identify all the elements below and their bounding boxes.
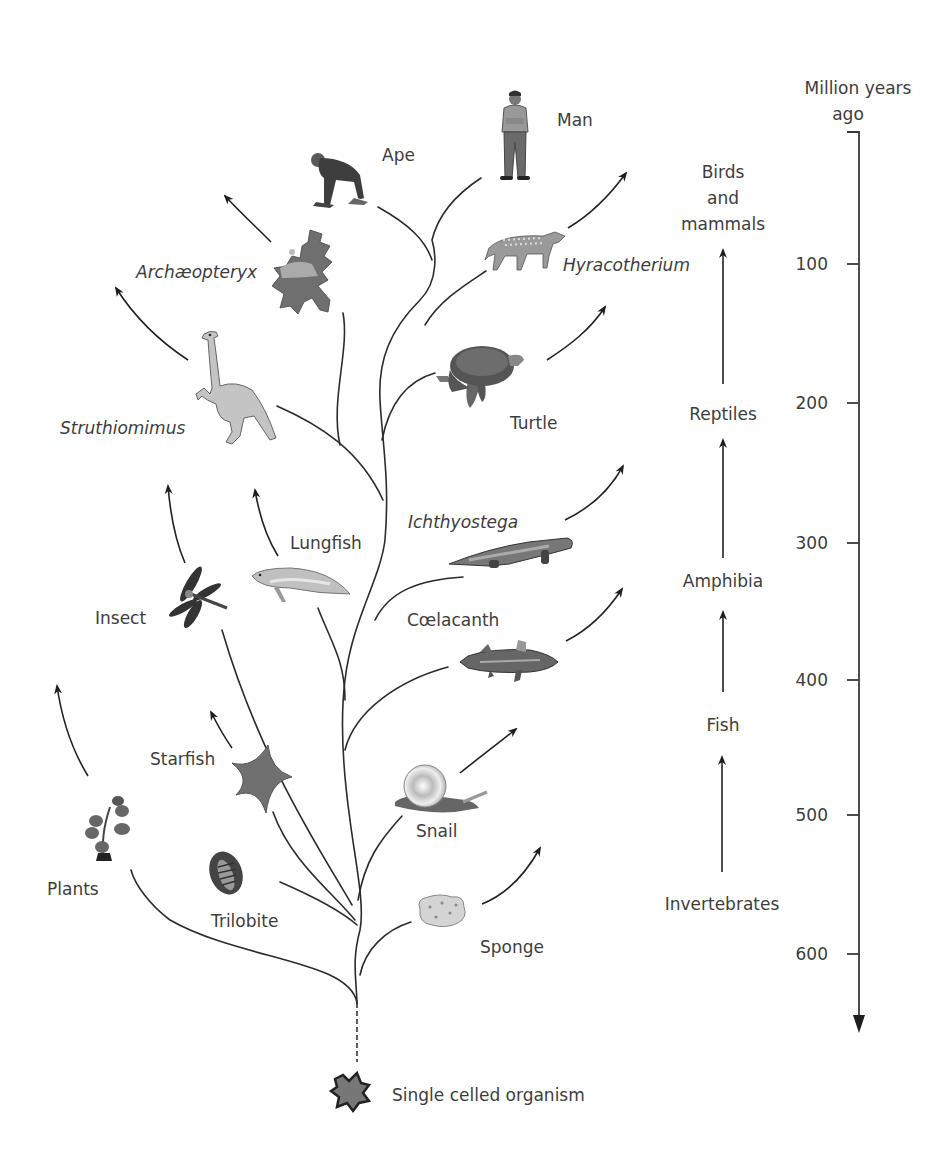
man-icon (500, 91, 530, 181)
label-ichthyostega: Ichthyostega (408, 512, 518, 532)
arrow-ichthyostega (565, 466, 623, 520)
tick-label-400: 400 (796, 670, 828, 690)
trilobite-icon (203, 847, 248, 899)
label-snail: Snail (416, 821, 457, 841)
organism-labels: Man Ape Archæopteryx Hyracotherium Strut… (47, 110, 690, 1105)
stage-reptiles: Reptiles (689, 404, 757, 424)
axis-line (847, 132, 859, 1020)
arrow-starfish (211, 712, 232, 748)
axis-title-line2: ago (832, 104, 864, 124)
arrow-hyracotherium (568, 173, 626, 228)
tick-label-200: 200 (796, 393, 828, 413)
label-turtle: Turtle (509, 413, 557, 433)
label-single-celled-organism: Single celled organism (392, 1085, 585, 1105)
sponge-icon (419, 895, 465, 927)
branch-trilobite (280, 882, 357, 925)
plant-icon (85, 796, 130, 861)
label-trilobite: Trilobite (210, 911, 278, 931)
stage-invertebrates: Invertebrates (665, 894, 780, 914)
ichthyostega-icon (449, 538, 572, 568)
archaeopteryx-icon (272, 230, 332, 314)
arrow-sponge (482, 848, 540, 904)
evolution-tree-diagram: Man Ape Archæopteryx Hyracotherium Strut… (0, 0, 943, 1171)
label-hyracotherium: Hyracotherium (563, 255, 690, 275)
arrow-turtle (547, 307, 605, 360)
branch-plants (131, 870, 357, 1003)
label-plants: Plants (47, 879, 99, 899)
label-insect: Insect (95, 608, 146, 628)
time-axis: Million years ago 100 200 300 400 500 60… (796, 78, 912, 1033)
branch-ape (378, 207, 432, 260)
arrow-archaeopteryx (225, 196, 271, 242)
label-ape: Ape (382, 145, 415, 165)
stage-fish: Fish (707, 715, 740, 735)
branch-archaeopteryx (337, 313, 344, 445)
stage-birds-line3: mammals (681, 214, 765, 234)
branch-struthiomimus (277, 406, 383, 500)
arrow-struthiomimus (116, 288, 188, 360)
branch-snail (358, 816, 402, 900)
axis-title-line1: Million years (805, 78, 912, 98)
lungfish-icon (252, 568, 350, 602)
tick-label-300: 300 (796, 533, 828, 553)
starfish-icon (232, 745, 292, 813)
branch-sponge (360, 922, 411, 975)
stage-birds-line1: Birds (702, 162, 745, 182)
branch-hyracotherium (425, 271, 486, 325)
label-archaeopteryx: Archæopteryx (135, 262, 258, 282)
label-starfish: Starfish (150, 749, 215, 769)
label-man: Man (557, 110, 593, 130)
tick-label-100: 100 (796, 254, 828, 274)
coelacanth-icon (460, 640, 558, 682)
label-coelacanth: Cœlacanth (407, 610, 499, 630)
stage-birds-line2: and (707, 188, 739, 208)
arrow-insect (168, 486, 185, 563)
snail-icon (395, 765, 487, 812)
arrow-plants (57, 686, 88, 776)
struthiomimus-icon (196, 331, 276, 444)
branch-lungfish (318, 608, 345, 700)
tick-label-600: 600 (796, 944, 828, 964)
branch-turtle (382, 373, 435, 440)
single-cell-icon (331, 1073, 369, 1111)
label-lungfish: Lungfish (290, 533, 362, 553)
label-sponge: Sponge (480, 937, 544, 957)
branch-coelacanth (345, 667, 448, 750)
dragonfly-icon (167, 564, 227, 630)
arrow-lungfish (255, 490, 278, 556)
branch-starfish (273, 812, 355, 920)
turtle-icon (436, 346, 524, 408)
axis-arrowhead (853, 1015, 865, 1033)
tick-label-500: 500 (796, 805, 828, 825)
label-struthiomimus: Struthiomimus (60, 418, 185, 438)
stage-amphibia: Amphibia (683, 571, 763, 591)
hyracotherium-icon (485, 232, 565, 270)
arrow-snail (460, 729, 516, 773)
ape-icon (311, 153, 368, 208)
arrow-coelacanth (566, 589, 622, 641)
